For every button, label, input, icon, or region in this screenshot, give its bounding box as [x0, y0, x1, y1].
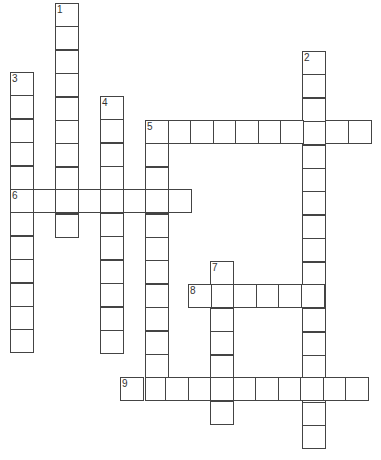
clue-number: 1 [57, 4, 63, 15]
crossword-cell[interactable]: 5 [145, 120, 169, 144]
crossword-cell[interactable]: 3 [10, 72, 34, 96]
crossword-cell[interactable] [302, 425, 326, 449]
clue-number: 4 [102, 97, 108, 108]
crossword-cell[interactable] [145, 331, 169, 355]
crossword-cell[interactable] [145, 189, 169, 213]
crossword-cell[interactable] [348, 120, 372, 144]
crossword-cell[interactable]: 1 [55, 3, 79, 27]
crossword-cell[interactable] [210, 284, 234, 308]
crossword-cell[interactable] [210, 331, 234, 355]
crossword-cell[interactable] [55, 120, 79, 144]
crossword-cell[interactable] [302, 238, 326, 262]
crossword-cell[interactable] [323, 377, 347, 401]
crossword-cell[interactable] [10, 212, 34, 236]
crossword-cell[interactable] [145, 307, 169, 331]
crossword-cell[interactable] [100, 260, 124, 284]
crossword-cell[interactable] [278, 377, 302, 401]
crossword-cell[interactable] [145, 260, 169, 284]
crossword-cell[interactable] [55, 97, 79, 121]
crossword-cell[interactable] [256, 284, 280, 308]
crossword-cell[interactable] [10, 95, 34, 119]
crossword-cell[interactable] [10, 259, 34, 283]
crossword-cell[interactable] [302, 262, 326, 286]
clue-number: 2 [304, 52, 310, 63]
crossword-cell[interactable] [100, 283, 124, 307]
crossword-cell[interactable] [302, 191, 326, 215]
crossword-cell[interactable] [100, 143, 124, 167]
crossword-cell[interactable]: 8 [188, 284, 212, 308]
crossword-cell[interactable] [188, 377, 212, 401]
clue-number: 6 [12, 190, 18, 201]
crossword-cell[interactable] [100, 236, 124, 260]
crossword-cell[interactable] [278, 284, 302, 308]
crossword-cell[interactable] [33, 189, 57, 213]
crossword-cell[interactable]: 9 [120, 377, 144, 401]
crossword-cell[interactable] [100, 307, 124, 331]
crossword-cell[interactable] [145, 143, 169, 167]
crossword-cell[interactable] [258, 120, 282, 144]
crossword-cell[interactable] [55, 189, 79, 213]
clue-number: 9 [122, 378, 128, 389]
clue-number: 7 [212, 262, 218, 273]
crossword-cell[interactable] [10, 166, 34, 190]
crossword-cell[interactable] [168, 189, 192, 213]
crossword-cell[interactable]: 7 [210, 261, 234, 285]
crossword-cell[interactable] [100, 119, 124, 143]
crossword-cell[interactable] [78, 189, 102, 213]
crossword-cell[interactable] [210, 308, 234, 332]
crossword-cell[interactable] [100, 166, 124, 190]
crossword-cell[interactable] [302, 168, 326, 192]
crossword-cell[interactable] [10, 142, 34, 166]
crossword-cell[interactable] [10, 329, 34, 353]
crossword-cell[interactable] [10, 119, 34, 143]
crossword-cell[interactable] [55, 73, 79, 97]
clue-number: 3 [12, 73, 18, 84]
crossword-cell[interactable] [100, 330, 124, 354]
crossword-cell[interactable] [233, 284, 257, 308]
crossword-cell[interactable] [302, 145, 326, 169]
crossword-cell[interactable] [145, 284, 169, 308]
crossword-cell[interactable] [345, 377, 369, 401]
crossword-cell[interactable] [123, 189, 147, 213]
crossword-cell[interactable] [302, 121, 326, 145]
crossword-cell[interactable] [302, 215, 326, 239]
crossword-cell[interactable] [145, 354, 169, 378]
crossword-cell[interactable] [302, 355, 326, 379]
crossword-cell[interactable] [145, 214, 169, 238]
crossword-cell[interactable] [55, 50, 79, 74]
crossword-cell[interactable] [100, 213, 124, 237]
crossword-cell[interactable] [300, 377, 324, 401]
crossword-cell[interactable] [10, 306, 34, 330]
crossword-cell[interactable] [145, 167, 169, 191]
crossword-cell[interactable]: 6 [10, 189, 34, 213]
crossword-cell[interactable] [302, 98, 326, 122]
clue-number: 8 [190, 285, 196, 296]
crossword-cell[interactable] [190, 120, 214, 144]
crossword-cell[interactable] [165, 377, 189, 401]
crossword-cell[interactable] [100, 189, 124, 213]
crossword-cell[interactable] [235, 120, 259, 144]
crossword-cell[interactable] [302, 308, 326, 332]
crossword-cell[interactable] [210, 355, 234, 379]
crossword-cell[interactable] [55, 214, 79, 238]
crossword-cell[interactable] [168, 120, 192, 144]
crossword-cell[interactable] [255, 377, 279, 401]
crossword-cell[interactable]: 4 [100, 96, 124, 120]
crossword-cell[interactable] [10, 236, 34, 260]
crossword-cell[interactable]: 2 [302, 51, 326, 75]
crossword-cell[interactable] [325, 120, 349, 144]
crossword-cell[interactable] [55, 26, 79, 50]
crossword-cell[interactable] [210, 401, 234, 425]
crossword-cell[interactable] [233, 377, 257, 401]
crossword-cell[interactable] [280, 120, 304, 144]
crossword-cell[interactable] [302, 332, 326, 356]
crossword-cell[interactable] [55, 143, 79, 167]
crossword-cell[interactable] [55, 167, 79, 191]
crossword-cell[interactable] [145, 237, 169, 261]
crossword-cell[interactable] [210, 377, 234, 401]
crossword-cell[interactable] [302, 74, 326, 98]
crossword-cell[interactable] [213, 120, 237, 144]
crossword-cell[interactable] [302, 402, 326, 426]
crossword-cell[interactable] [301, 284, 325, 308]
crossword-cell[interactable] [10, 283, 34, 307]
